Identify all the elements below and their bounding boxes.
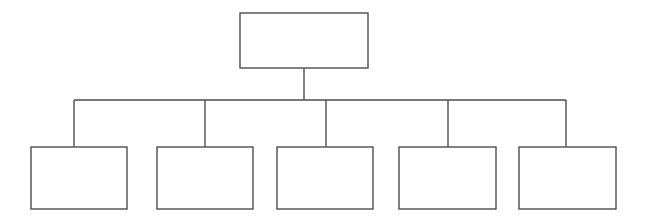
org-chart-diagram	[0, 0, 645, 219]
root-node-box[interactable]	[240, 13, 368, 68]
node-layer	[31, 13, 616, 209]
child-node-box-4[interactable]	[399, 147, 496, 209]
child-node-box-1[interactable]	[31, 147, 127, 209]
child-node-box-5[interactable]	[519, 147, 616, 209]
child-node-box-2[interactable]	[157, 147, 253, 209]
diagram-svg-surface	[0, 0, 645, 219]
connector-layer	[74, 68, 566, 147]
child-node-box-3[interactable]	[277, 147, 373, 209]
